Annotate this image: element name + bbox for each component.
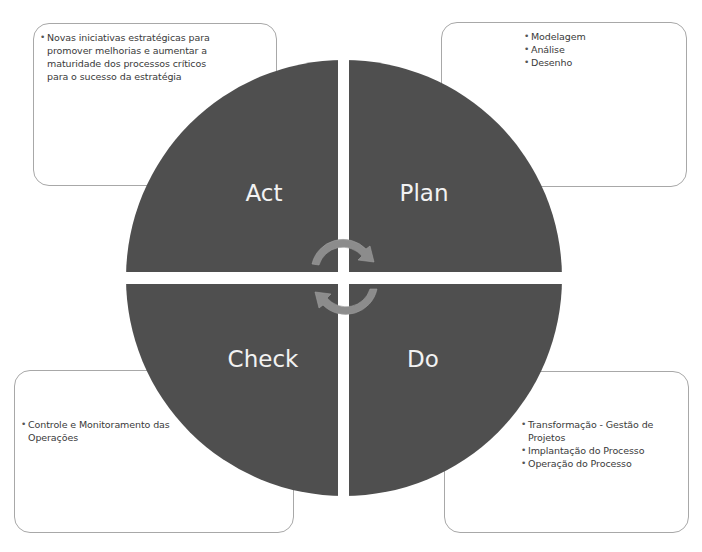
quadrant-check	[120, 284, 338, 506]
cycle-arrows-icon	[312, 239, 377, 314]
pdca-circle	[0, 0, 702, 552]
quadrant-plan	[349, 50, 567, 272]
quadrant-label-check: Check	[203, 346, 323, 372]
quadrant-act	[120, 50, 338, 272]
quadrant-do	[349, 284, 567, 506]
quadrant-label-plan: Plan	[364, 180, 484, 206]
quadrant-label-act: Act	[204, 180, 324, 206]
quadrant-label-do: Do	[363, 346, 483, 372]
